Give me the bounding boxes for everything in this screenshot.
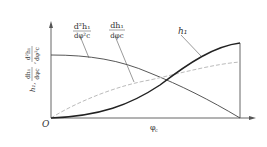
leader-first-derivative	[115, 36, 134, 82]
label-h1: h₁	[178, 26, 187, 36]
curve-h1	[51, 43, 240, 118]
x-axis-label: φ c	[150, 123, 158, 133]
cam-motion-diagram: d²h₁ dφ²c dh₁ dφc h₁ O φ c h₁, dh₁ dφc ,…	[0, 0, 267, 147]
svg-text:h₁,: h₁,	[29, 82, 37, 92]
leader-h1	[181, 35, 201, 56]
svg-text:d²h₁: d²h₁	[74, 22, 91, 31]
svg-text:dφ²c: dφ²c	[33, 46, 41, 60]
label-first-derivative: dh₁ dφc	[109, 21, 125, 40]
curve-first-derivative	[51, 62, 240, 118]
y-axis-label: h₁, dh₁ dφc , d²h₁ dφ²c	[24, 46, 41, 92]
svg-text:dh₁: dh₁	[110, 21, 123, 30]
svg-text:d²h₁: d²h₁	[24, 48, 31, 61]
origin-label: O	[42, 119, 50, 129]
label-second-derivative: d²h₁ dφ²c	[73, 22, 91, 40]
svg-text:dφc: dφc	[33, 68, 41, 80]
curve-second-derivative	[51, 55, 240, 118]
svg-text:c: c	[155, 127, 158, 133]
svg-text:,: ,	[29, 62, 37, 64]
y-axis-arrow-icon	[49, 21, 53, 28]
svg-text:dφ²c: dφ²c	[74, 32, 90, 40]
svg-text:dh₁: dh₁	[24, 69, 31, 79]
svg-text:dφc: dφc	[110, 32, 123, 40]
x-axis-arrow-icon	[249, 116, 256, 120]
